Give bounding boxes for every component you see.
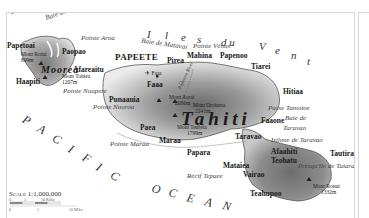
label-papetoai: Papetoai	[7, 42, 35, 50]
label-afaahiti: Afaahiti	[271, 148, 297, 156]
label-vent-2: e	[275, 45, 280, 56]
label-mont-aorai: Mont Aorai2066m	[169, 95, 195, 107]
label-mont-tohiea: Mont Tohiea1207m	[62, 74, 90, 86]
scale-km-0: 0	[9, 198, 11, 202]
label-vairao: Vairao	[243, 171, 264, 179]
label-mont-ronui: Mont Ronui1332m	[313, 184, 340, 196]
label-pointe-maraa: Pointe Maraa	[110, 141, 149, 148]
label-faaone: Faaone	[261, 117, 284, 125]
label-paea: Paea	[140, 124, 155, 132]
label-vent-1: V	[259, 41, 266, 52]
label-passe-tamotoe: Passe Tamotoe	[268, 105, 310, 112]
label-pointe-venus: Pointe Vénus	[193, 43, 230, 50]
scale-mi-10: 10 Miles	[69, 208, 83, 212]
label-teohatu: Teohatu	[271, 157, 297, 165]
label-papenoo: Papenoo	[220, 52, 248, 60]
label-paopao: Paopao	[62, 48, 86, 56]
scale-mi-5: 5	[37, 208, 39, 212]
label-pointe-aroa: Pointe Aroa	[81, 35, 115, 42]
label-pirea: Pirea	[167, 57, 184, 65]
label-baie-taravao-2: Taravao	[283, 125, 306, 132]
label-haapiti: Haapiti	[16, 78, 40, 86]
label-mataiea: Mataiea	[223, 162, 249, 170]
label-tautira: Tautira	[330, 150, 354, 158]
label-papara: Papara	[187, 149, 210, 157]
label-hitiaa: Hitiaa	[283, 88, 303, 96]
scale-km-5: 5	[24, 198, 26, 202]
label-vent-4: t	[307, 56, 310, 67]
label-tiarei: Tiarei	[251, 63, 270, 71]
label-pointe-nuuroa: Pointe Nuuroa	[93, 104, 134, 111]
label-mont-teufeta: Mont Teufeta1799m	[177, 125, 207, 137]
scale-mi-0: 0	[9, 208, 11, 212]
label-recif-tepaee: Récif Tepaee	[187, 173, 223, 180]
label-pointe-nuupere: Pointe Nuupere	[63, 88, 107, 95]
label-isthme-taravao: Isthme de Taravao	[271, 137, 323, 144]
label-vent-3: n	[291, 50, 297, 61]
label-faaa: Faaa	[147, 81, 163, 89]
label-mahina: Mahina	[187, 52, 212, 60]
label-iles-3: e	[181, 32, 186, 43]
label-mont-rotui: Mont Rotui899m	[21, 52, 47, 64]
label-airport: ✈ Faaa	[145, 71, 162, 77]
label-teahupoo: Teahupoo	[250, 190, 281, 198]
map-frame: Baie d' Opunohu Baie de Cook Pointe Aroa…	[6, 12, 355, 218]
scale-km-10: 10 Kilos	[41, 198, 55, 202]
label-maraa: Maraa	[159, 137, 181, 145]
label-baie-taravao-1: Baie de	[285, 115, 306, 122]
adjacent-panel	[358, 12, 369, 218]
label-presquile: Presqu'île de Taiarapu	[298, 163, 355, 170]
label-taravao: Taravao	[235, 133, 261, 141]
label-papeete: PAPEETE	[115, 53, 158, 62]
